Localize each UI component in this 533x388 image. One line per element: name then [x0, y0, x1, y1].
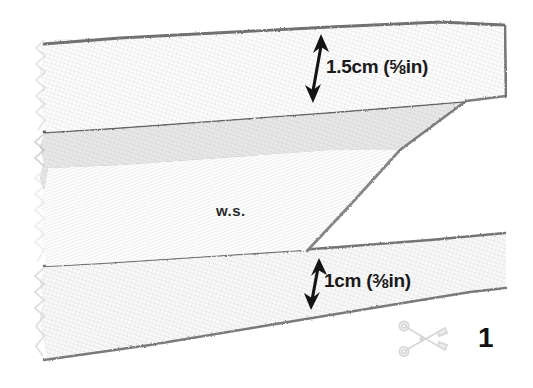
dimension-bottom-imperial: (3⁄8in)	[361, 270, 411, 291]
step-number: 1	[478, 322, 494, 354]
dimension-label-top: 1.5cm (5⁄8in)	[326, 56, 428, 78]
dimension-top-imperial: (5⁄8in)	[378, 56, 428, 77]
illustration-canvas: 1.5cm (5⁄8in) 1cm (3⁄8in) w.s. 1	[0, 0, 533, 388]
dimension-top-metric: 1.5cm	[326, 56, 378, 77]
dimension-bottom-metric: 1cm	[324, 270, 361, 291]
scissors-icon	[399, 321, 447, 356]
wrong-side-label: w.s.	[216, 202, 246, 219]
dimension-label-bottom: 1cm (3⁄8in)	[324, 270, 411, 292]
fabric-diagram	[0, 0, 533, 388]
